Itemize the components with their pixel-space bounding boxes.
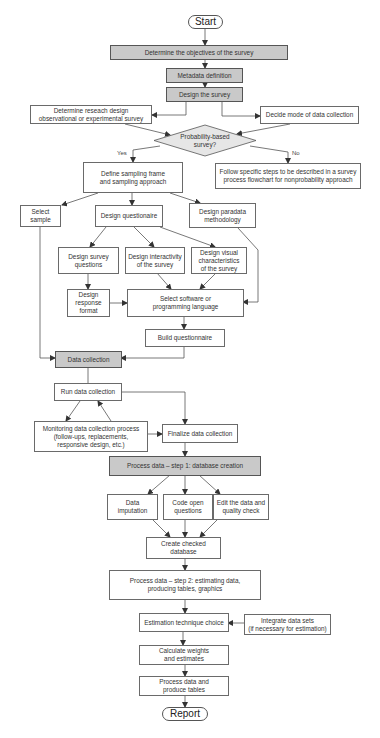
node-design-survey: Design the survey — [166, 87, 243, 102]
node-estimation-technique: Estimation technique choice — [139, 613, 229, 632]
node-decide-mode: Decide mode of data collection — [260, 106, 359, 124]
node-create-checked-database: Create checked database — [146, 537, 221, 559]
node-design-paradata: Design paradata methodology — [189, 203, 256, 228]
node-data-imputation: Data imputation — [107, 494, 158, 520]
node-select-sample: Select sample — [20, 205, 61, 227]
node-integrate-data-sets: Integrate data sets (if necessary for es… — [244, 614, 331, 635]
decision-label: Probability-based survey? — [153, 124, 257, 157]
node-edit-data: Edit the data and quality check — [213, 494, 269, 520]
node-build-questionnaire: Build questionnaire — [145, 329, 225, 347]
node-select-software: Select software or programming language — [127, 289, 244, 317]
node-design-questionnaire: Design questionaire — [95, 205, 163, 227]
node-determine-objectives: Determine the objectives of the survey — [110, 45, 288, 60]
node-finalize-data-collection: Finalize data collection — [162, 424, 238, 443]
node-follow-specific-steps: Follow specific steps to be described in… — [215, 163, 361, 189]
node-process-step2: Process data – step 2: estimating data, … — [109, 570, 261, 600]
report-terminal: Report — [162, 707, 208, 721]
node-data-collection: Data collection — [55, 351, 122, 368]
node-calculate-weights: Calculate weights and estimates — [139, 645, 229, 665]
node-define-sampling: Define sampling frame and sampling appro… — [83, 162, 183, 193]
start-terminal: Start — [188, 15, 223, 29]
node-design-interactivity: Design interactivity of the survey — [125, 247, 185, 274]
node-process-produce-tables: Process data and produce tables — [139, 676, 229, 696]
node-research-design: Determine reseach design observational o… — [30, 105, 152, 124]
node-metadata-definition: Metadata definition — [166, 68, 243, 83]
node-design-response-format: Design response format — [67, 289, 110, 317]
node-design-visual: Design visual characteristics of the sur… — [191, 247, 247, 274]
node-run-data-collection: Run data collection — [54, 383, 122, 401]
node-design-survey-questions: Design survey questions — [58, 247, 119, 274]
decision-probability-based: Probability-based survey? — [153, 124, 257, 157]
node-code-open-questions: Code open questions — [163, 494, 213, 520]
edge-label-no: No — [292, 150, 300, 156]
node-monitoring: Monitoring data collection process (foll… — [34, 421, 148, 452]
edge-label-yes: Yes — [117, 150, 127, 156]
node-process-step1: Process data – step 1: database creation — [109, 456, 261, 476]
